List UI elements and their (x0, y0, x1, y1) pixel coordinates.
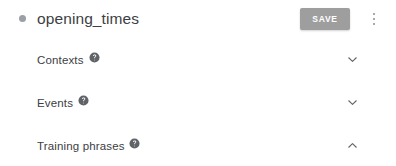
status-dot (19, 15, 26, 22)
more-options-icon[interactable] (367, 7, 381, 31)
page-title: opening_times (37, 8, 139, 30)
chevron-down-icon[interactable] (345, 95, 360, 110)
section-row-training-phrases[interactable]: Training phrases (0, 124, 396, 166)
section-label: Training phrases (37, 138, 125, 154)
section-row-contexts[interactable]: Contexts (0, 38, 396, 81)
section-label: Contexts (37, 52, 84, 68)
help-icon[interactable] (89, 52, 100, 63)
chevron-down-icon[interactable] (345, 52, 360, 67)
menu-dot (373, 13, 376, 16)
menu-dot (373, 18, 376, 21)
intent-editor-panel: opening_times SAVE Contexts Events (0, 0, 396, 166)
section-row-events[interactable]: Events (0, 81, 396, 124)
save-button[interactable]: SAVE (300, 8, 350, 30)
help-icon[interactable] (129, 138, 140, 149)
menu-dot (373, 23, 376, 26)
chevron-up-icon[interactable] (345, 138, 360, 153)
help-icon[interactable] (78, 95, 89, 106)
section-label: Events (37, 95, 73, 111)
intent-header: opening_times SAVE (0, 0, 396, 38)
